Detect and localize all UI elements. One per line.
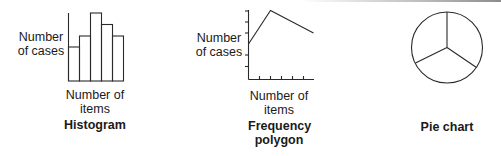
polygon-title: Frequency polygon	[248, 119, 310, 147]
polygon-line	[249, 11, 314, 45]
histogram-y-label: Number of cases	[16, 30, 66, 58]
polygon-y-label: Number of cases	[192, 31, 246, 59]
histogram-x-label-line1: Number of	[64, 88, 126, 102]
histogram-x-label: Number of items	[64, 88, 126, 116]
histogram-y-label-line2: of cases	[16, 44, 66, 58]
pie-title: Pie chart	[412, 120, 482, 134]
polygon-title-line2: polygon	[248, 133, 310, 147]
frequency-polygon-chart	[245, 10, 314, 80]
polygon-x-label: Number of items	[248, 89, 310, 117]
histogram-y-label-line1: Number	[16, 30, 66, 44]
polygon-title-line1: Frequency	[248, 119, 310, 133]
histogram-bar	[80, 36, 91, 81]
polygon-x-label-line1: Number of	[248, 89, 310, 103]
histogram-bar	[102, 25, 113, 82]
pie-chart	[412, 12, 483, 83]
histogram-bar	[69, 47, 80, 81]
pie-slice-divider	[416, 48, 448, 64]
histogram-bar	[113, 36, 124, 81]
histogram-title: Histogram	[64, 118, 126, 132]
histogram-bar	[91, 13, 102, 81]
polygon-y-label-line2: of cases	[192, 45, 246, 59]
pie-slice-divider	[447, 48, 477, 68]
polygon-y-label-line1: Number	[192, 31, 246, 45]
polygon-x-label-line2: items	[248, 103, 310, 117]
histogram-x-label-line2: items	[64, 102, 126, 116]
histogram-chart	[69, 13, 124, 81]
